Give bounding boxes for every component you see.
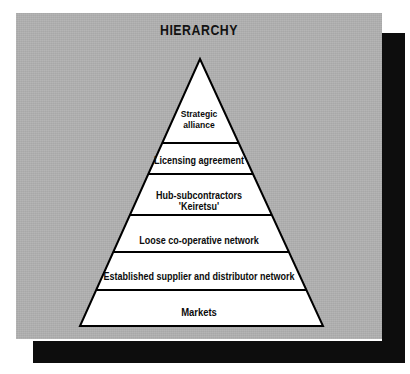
pyramid-diagram — [16, 13, 382, 339]
figure-panel: HIERARCHY Strategic allianceLicensing ag… — [16, 13, 382, 339]
pyramid-outline — [80, 59, 323, 326]
panel-drop-shadow-right — [382, 33, 405, 363]
figure-canvas: HIERARCHY Strategic allianceLicensing ag… — [0, 0, 410, 374]
panel-drop-shadow-bottom — [33, 341, 405, 363]
